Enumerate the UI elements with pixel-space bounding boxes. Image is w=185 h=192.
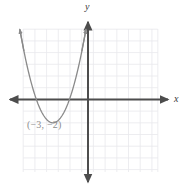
grid-lines [23,29,158,172]
x-axis-label: x [174,94,178,104]
parabola-right-arrow [82,30,86,52]
y-axis-label: y [85,2,89,12]
vertex-coordinate-label: (−3, −2) [27,120,62,130]
parabola-graph-figure: y x (−3, −2) [0,0,185,192]
graph-canvas [0,0,185,192]
